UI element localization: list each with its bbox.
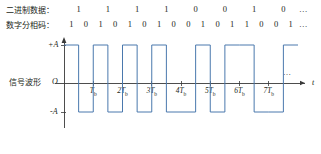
manchester-encoding-figure: 二进制数据： 11110010… 数字分相码： 1010101001011001… bbox=[0, 0, 321, 154]
manchester-waveform-trace bbox=[64, 45, 298, 112]
x-axis-arrow bbox=[300, 81, 305, 85]
y-axis-arrow bbox=[62, 37, 67, 43]
signal-waveform-plot bbox=[0, 0, 321, 154]
